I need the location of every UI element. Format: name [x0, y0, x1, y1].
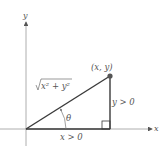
- right-angle-marker: [102, 121, 110, 129]
- vertical-leg-label: y > 0: [111, 97, 135, 107]
- angle-label: θ: [66, 113, 71, 123]
- hypotenuse-label: x² + y²: [41, 81, 71, 91]
- y-axis-label: y: [22, 11, 28, 20]
- right-triangle-diagram: y x (x, y) x² + y² θ y > 0 x > 0: [0, 0, 160, 146]
- point-dot: [107, 73, 112, 78]
- x-axis-label: x: [154, 124, 159, 133]
- point-label: (x, y): [91, 62, 113, 72]
- horizontal-leg-label: x > 0: [60, 132, 83, 142]
